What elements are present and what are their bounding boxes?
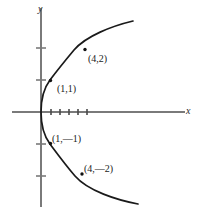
point-label-4-neg2: (4,—2) [84,164,113,174]
parabola-lower-branch [41,112,138,204]
parabola-upper-branch [41,21,133,112]
graph-canvas [0,0,200,218]
data-point-1-1 [49,79,52,82]
y-axis-label: y [38,4,42,14]
point-label-1-1: (1,1) [57,84,76,94]
x-axis-label: x [186,106,190,116]
point-label-4-2: (4,2) [88,54,107,64]
data-point-4-2 [83,48,86,51]
parabola-figure: y x (4,2) (1,1) (1,—1) (4,—2) [0,0,200,218]
point-label-1-neg1: (1,—1) [52,134,81,144]
